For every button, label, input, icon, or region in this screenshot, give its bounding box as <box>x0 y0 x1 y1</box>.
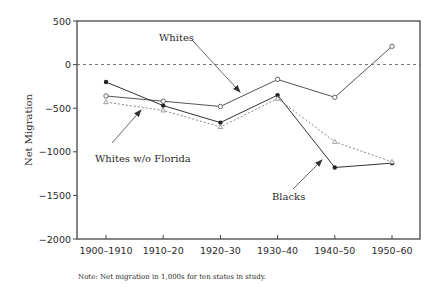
series-line <box>106 46 392 106</box>
net-migration-chart: 5000−500−1000−1500−2000 1900–19101910–20… <box>0 0 440 291</box>
y-tick-label: 0 <box>65 59 71 70</box>
x-tick-label: 1900–1910 <box>79 245 132 256</box>
y-axis-label: Net Migration <box>23 93 34 166</box>
x-tick-label: 1940–50 <box>314 245 355 256</box>
data-point-filled-circle-icon <box>333 165 337 169</box>
y-tick-label: −500 <box>45 103 71 114</box>
data-point-open-triangle-icon <box>104 100 109 104</box>
y-tick-label: −1500 <box>39 190 71 201</box>
arrow-whites-wo-florida-icon <box>112 110 141 143</box>
chart-note: Note: Net migration in 1,000s for ten st… <box>78 273 266 281</box>
data-point-open-triangle-icon <box>161 108 166 112</box>
x-axis: 1900–19101910–201920–301930–401940–50195… <box>79 235 412 256</box>
x-tick-label: 1910–20 <box>143 245 184 256</box>
data-point-open-triangle-icon <box>218 125 223 129</box>
series-group <box>104 44 395 170</box>
data-point-filled-circle-icon <box>161 103 165 107</box>
data-point-open-circle-icon <box>275 77 279 81</box>
y-tick-label: −2000 <box>39 234 71 245</box>
data-point-filled-circle-icon <box>104 80 108 84</box>
data-point-open-circle-icon <box>104 94 108 98</box>
data-point-open-triangle-icon <box>333 139 338 143</box>
y-axis: 5000−500−1000−1500−2000 <box>39 16 77 245</box>
y-tick-label: 500 <box>53 16 71 27</box>
plot-frame <box>77 21 420 239</box>
annotation-whites: Whites <box>159 32 194 43</box>
arrow-blacks-icon <box>293 160 322 189</box>
annotation-blacks: Blacks <box>272 191 305 202</box>
data-point-open-circle-icon <box>161 99 165 103</box>
chart-canvas: 5000−500−1000−1500−2000 1900–19101910–20… <box>0 0 440 291</box>
annotation-whites-wo-florida: Whites w/o Florida <box>95 153 191 164</box>
y-tick-label: −1000 <box>39 146 71 157</box>
data-point-open-triangle-icon <box>390 159 395 163</box>
x-tick-label: 1920–30 <box>200 245 241 256</box>
x-tick-label: 1950–60 <box>371 245 412 256</box>
data-point-open-circle-icon <box>390 44 394 48</box>
data-point-open-circle-icon <box>333 95 337 99</box>
arrow-whites-icon <box>192 40 240 92</box>
data-point-open-circle-icon <box>218 104 222 108</box>
x-tick-label: 1930–40 <box>257 245 298 256</box>
